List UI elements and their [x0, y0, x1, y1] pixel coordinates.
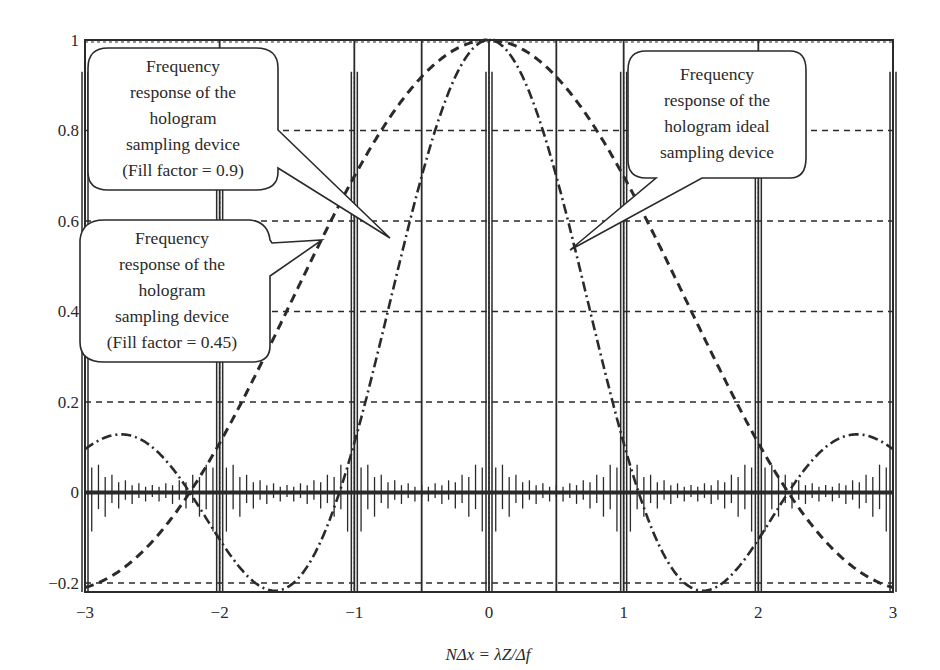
x-tick-label: 2	[754, 603, 763, 622]
callout-fill-factor-09: Frequencyresponse of thehologramsampling…	[88, 48, 390, 238]
callout-line: hologram	[138, 280, 205, 300]
callout-line: sampling device	[660, 142, 774, 162]
y-tick-label: 0.2	[58, 393, 79, 412]
callout-fill-factor-045: Frequencyresponse of thehologramsampling…	[80, 220, 322, 362]
callout-line: response of the	[664, 90, 770, 110]
callout-line: sampling device	[126, 134, 240, 154]
x-tick-label: 0	[485, 603, 494, 622]
x-axis-ticks: −3−2−10123	[76, 603, 897, 622]
frequency-response-chart: −0.200.20.40.60.81 −3−2−10123 NΔx = λZ/Δ…	[0, 0, 940, 670]
callout-line: sampling device	[115, 306, 229, 326]
callout-line: hologram	[149, 108, 216, 128]
callout-line: Frequency	[680, 64, 754, 84]
callout-line: (Fill factor = 0.9)	[122, 160, 244, 180]
callout-line: response of the	[119, 254, 225, 274]
x-axis-label: NΔx = λZ/Δf	[444, 645, 532, 664]
callout-line: (Fill factor = 0.45)	[107, 332, 238, 352]
x-tick-label: 3	[889, 603, 898, 622]
x-tick-label: −1	[345, 603, 363, 622]
callout-ideal-sampling: Frequencyresponse of thehologram idealsa…	[570, 51, 806, 250]
y-tick-label: −0.2	[48, 574, 79, 593]
x-tick-label: −2	[211, 603, 229, 622]
callout-line: Frequency	[146, 56, 220, 76]
y-tick-label: 0.8	[58, 121, 79, 140]
y-tick-label: 1	[71, 31, 80, 50]
callout-line: response of the	[130, 82, 236, 102]
y-tick-label: 0.6	[58, 212, 79, 231]
y-tick-label: 0	[71, 483, 80, 502]
y-tick-label: 0.4	[58, 302, 80, 321]
x-tick-label: −3	[76, 603, 94, 622]
callout-line: hologram ideal	[664, 116, 770, 136]
callout-line: Frequency	[135, 228, 209, 248]
y-axis-ticks: −0.200.20.40.60.81	[48, 31, 79, 593]
x-tick-label: 1	[619, 603, 628, 622]
